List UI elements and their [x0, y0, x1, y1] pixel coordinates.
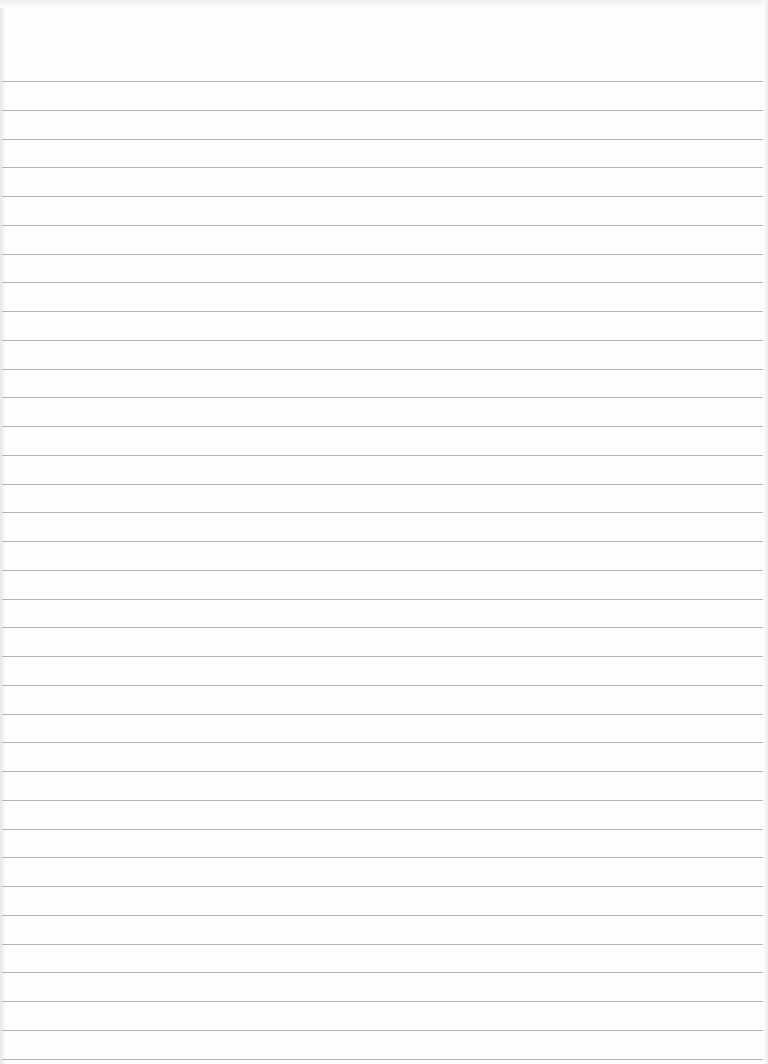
- ruled-line: [2, 340, 766, 341]
- paper-top-edge: [0, 0, 768, 8]
- ruled-line: [2, 627, 766, 628]
- ruled-line: [2, 139, 766, 140]
- ruled-line: [2, 656, 766, 657]
- ruled-line: [2, 570, 766, 571]
- ruled-line: [2, 972, 766, 973]
- ruled-line: [2, 254, 766, 255]
- ruled-line: [2, 225, 766, 226]
- ruled-line: [2, 311, 766, 312]
- ruled-line: [2, 714, 766, 715]
- ruled-line: [2, 484, 766, 485]
- ruled-line: [2, 369, 766, 370]
- ruled-line: [2, 81, 766, 82]
- ruled-line: [2, 1001, 766, 1002]
- ruled-line: [2, 282, 766, 283]
- ruled-line: [2, 110, 766, 111]
- ruled-line: [2, 512, 766, 513]
- ruled-line: [2, 915, 766, 916]
- ruled-line: [2, 397, 766, 398]
- lined-paper-page: [0, 0, 768, 1064]
- ruled-line: [2, 599, 766, 600]
- ruled-line: [2, 685, 766, 686]
- ruled-line: [2, 742, 766, 743]
- ruled-line: [2, 944, 766, 945]
- ruled-line: [2, 886, 766, 887]
- ruled-line: [2, 541, 766, 542]
- ruled-line: [2, 426, 766, 427]
- ruled-line: [2, 196, 766, 197]
- ruled-line: [2, 800, 766, 801]
- ruled-line: [2, 771, 766, 772]
- ruled-line: [2, 829, 766, 830]
- ruled-line: [2, 455, 766, 456]
- ruled-line: [2, 167, 766, 168]
- ruled-line: [2, 1030, 766, 1031]
- ruled-line: [2, 1059, 766, 1060]
- ruled-line: [2, 857, 766, 858]
